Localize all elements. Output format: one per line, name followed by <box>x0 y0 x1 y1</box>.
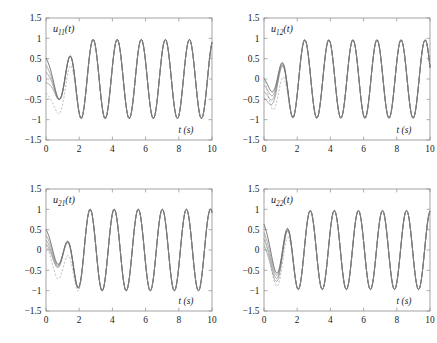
signal-label-suffix: (t) <box>283 194 293 206</box>
y-tick-label: −1.5 <box>242 135 259 145</box>
x-tick-label: 0 <box>44 315 49 325</box>
y-tick-label: −0.5 <box>24 266 41 276</box>
panel-u22: 0246810−1.5−1−0.500.511.5t (s)u22(t) <box>218 171 437 343</box>
y-tick-label: 1.5 <box>248 13 260 23</box>
y-tick-label: 0.5 <box>30 54 42 64</box>
y-tick-label: −1 <box>32 286 42 296</box>
y-tick-label: −1.5 <box>24 135 41 145</box>
plot-u21: 0246810−1.5−1−0.500.511.5t (s)u21(t) <box>0 171 218 343</box>
x-tick-label: 10 <box>425 315 435 325</box>
plot-frame <box>46 18 212 140</box>
x-axis-label: t (s) <box>179 296 194 307</box>
y-tick-label: 0.5 <box>248 225 260 235</box>
x-tick-label: 6 <box>143 144 148 154</box>
x-tick-label: 2 <box>77 144 82 154</box>
signal-label-subscript: 21 <box>58 200 65 208</box>
x-tick-label: 0 <box>44 144 49 154</box>
x-tick-label: 4 <box>110 315 115 325</box>
signal-label-subscript: 11 <box>58 29 65 37</box>
y-tick-label: 0.5 <box>30 225 42 235</box>
figure-four-control-signals: 0246810−1.5−1−0.500.511.5t (s)u11(t) 024… <box>0 0 437 343</box>
y-tick-label: 0 <box>255 245 260 255</box>
y-tick-label: 1.5 <box>30 184 42 194</box>
y-tick-label: −0.5 <box>242 95 259 105</box>
x-tick-label: 6 <box>361 315 366 325</box>
x-tick-label: 10 <box>425 144 435 154</box>
x-tick-label: 8 <box>176 315 181 325</box>
x-tick-label: 8 <box>394 315 399 325</box>
panel-u12: 0246810−1.5−1−0.500.511.5t (s)u12(t) <box>218 0 437 172</box>
plot-u22: 0246810−1.5−1−0.500.511.5t (s)u22(t) <box>218 171 437 343</box>
y-tick-label: 0 <box>255 74 260 84</box>
x-tick-label: 6 <box>143 315 148 325</box>
x-tick-label: 8 <box>176 144 181 154</box>
y-tick-label: 0.5 <box>248 54 260 64</box>
x-tick-label: 6 <box>361 144 366 154</box>
x-tick-label: 2 <box>77 315 82 325</box>
x-tick-label: 2 <box>295 315 300 325</box>
x-tick-label: 0 <box>262 315 267 325</box>
x-axis-label: t (s) <box>179 125 194 136</box>
y-tick-label: −1 <box>32 115 42 125</box>
x-tick-label: 0 <box>262 144 267 154</box>
x-axis-label: t (s) <box>397 296 412 307</box>
y-tick-label: 1.5 <box>30 13 42 23</box>
plot-u12: 0246810−1.5−1−0.500.511.5t (s)u12(t) <box>218 0 437 172</box>
signal-label-suffix: (t) <box>65 194 75 206</box>
x-tick-label: 4 <box>110 144 115 154</box>
signal-label-suffix: (t) <box>65 23 75 35</box>
panel-u11: 0246810−1.5−1−0.500.511.5t (s)u11(t) <box>0 0 218 172</box>
plot-frame <box>264 189 430 311</box>
y-tick-label: −0.5 <box>242 266 259 276</box>
y-tick-label: −1.5 <box>242 306 259 316</box>
y-tick-label: 1 <box>255 34 260 44</box>
x-tick-label: 4 <box>328 315 333 325</box>
y-tick-label: −1 <box>250 115 260 125</box>
x-tick-label: 2 <box>295 144 300 154</box>
y-tick-label: 0 <box>37 245 42 255</box>
y-tick-label: 0 <box>37 74 42 84</box>
x-tick-label: 10 <box>207 315 217 325</box>
y-tick-label: 1.5 <box>248 184 260 194</box>
y-tick-label: −1 <box>250 286 260 296</box>
y-tick-label: 1 <box>255 205 260 215</box>
y-tick-label: −0.5 <box>24 95 41 105</box>
x-tick-label: 8 <box>394 144 399 154</box>
y-tick-label: −1.5 <box>24 306 41 316</box>
y-tick-label: 1 <box>37 205 42 215</box>
x-axis-label: t (s) <box>397 125 412 136</box>
panel-u21: 0246810−1.5−1−0.500.511.5t (s)u21(t) <box>0 171 218 343</box>
y-tick-label: 1 <box>37 34 42 44</box>
x-tick-label: 4 <box>328 144 333 154</box>
plot-u11: 0246810−1.5−1−0.500.511.5t (s)u11(t) <box>0 0 218 172</box>
signal-label-suffix: (t) <box>283 23 293 35</box>
x-tick-label: 10 <box>207 144 217 154</box>
